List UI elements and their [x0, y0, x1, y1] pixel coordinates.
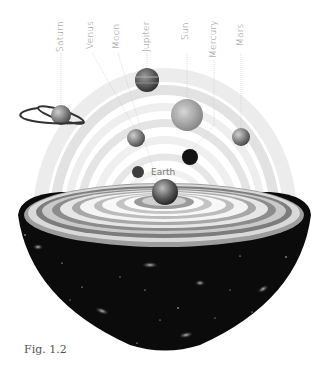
saturn-planet — [20, 103, 85, 127]
jupiter-planet — [135, 68, 159, 92]
label-mars: Mars — [235, 24, 245, 46]
venus-planet — [127, 129, 145, 147]
mercury-planet — [182, 149, 198, 165]
label-mercury: Mercury — [208, 20, 218, 58]
label-jupiter: Jupiter — [141, 21, 151, 52]
moon-body — [132, 166, 144, 178]
sun-body — [171, 99, 203, 131]
label-earth: Earth — [151, 167, 175, 177]
label-saturn: Saturn — [55, 21, 65, 52]
figure-caption: Fig. 1.2 — [24, 343, 67, 356]
earth-planet — [152, 179, 178, 205]
label-moon: Moon — [111, 24, 121, 49]
mars-planet — [232, 128, 250, 146]
starry-hemisphere — [18, 183, 311, 351]
diagram-canvas — [0, 0, 332, 379]
label-venus: Venus — [85, 21, 95, 49]
geocentric-diagram: Saturn Venus Moon Jupiter Sun Mercury Ma… — [0, 0, 332, 379]
label-sun: Sun — [180, 22, 190, 40]
